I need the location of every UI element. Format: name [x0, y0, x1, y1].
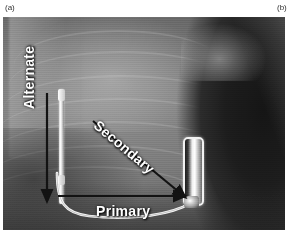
chest-radiograph-image: Alternate Secondary Primary: [3, 17, 285, 230]
figure-container: (a) (b): [0, 0, 296, 234]
film-grain-overlay: [3, 17, 285, 230]
panel-label-b: (b): [277, 3, 287, 13]
panel-label-a: (a): [5, 3, 15, 13]
